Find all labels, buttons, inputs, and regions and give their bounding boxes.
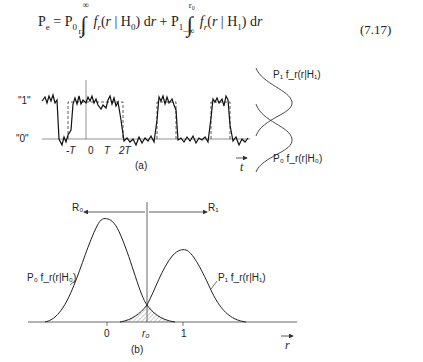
level-one-label: "1" xyxy=(18,95,31,106)
h0-density-curve xyxy=(45,219,175,322)
h0-curve-label: P₀ f_r(r|H₀) xyxy=(27,272,76,283)
figure-a xyxy=(42,68,292,172)
region-r1-label: R₁ xyxy=(208,202,219,213)
tick-b-zero: 0 xyxy=(104,328,110,339)
tick-zero: 0 xyxy=(88,145,94,156)
tick-t: T xyxy=(104,145,110,156)
ideal-pulses xyxy=(68,102,230,139)
figure-canvas xyxy=(0,0,423,362)
h1-curve-label: P₁ f_r(r|H₁) xyxy=(218,272,266,283)
caption-b: (b) xyxy=(131,344,143,355)
figure-b xyxy=(28,158,297,336)
lower-density-label: P₀ f_r(r|H₀) xyxy=(273,153,322,164)
t-axis-label: t xyxy=(240,160,243,175)
tick-2t: 2T xyxy=(119,145,131,156)
region-r0-label: R₀ xyxy=(72,202,83,213)
tick-b-r0: r₀ xyxy=(142,328,150,339)
tick-b-one: 1 xyxy=(181,328,187,339)
tick-minus-t: -T xyxy=(66,145,75,156)
r-axis-label: r xyxy=(285,338,290,353)
upper-density-label: P₁ f_r(r|H₁) xyxy=(273,69,321,80)
caption-a: (a) xyxy=(135,160,147,171)
level-zero-label: "0" xyxy=(16,133,29,144)
noisy-signal xyxy=(42,95,248,145)
